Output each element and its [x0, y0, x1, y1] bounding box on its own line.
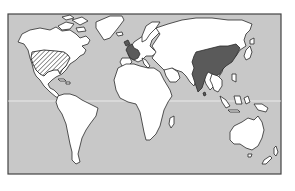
sri-lanka: [203, 92, 206, 96]
world-map: [0, 0, 295, 191]
world-map-figure: United States United Kingdom / France (W…: [0, 0, 295, 191]
tasmania: [248, 154, 252, 157]
